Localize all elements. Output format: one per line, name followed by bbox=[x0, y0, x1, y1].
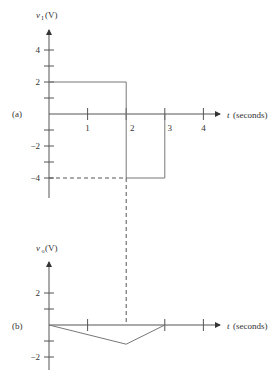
panel-a-signal-line bbox=[49, 82, 165, 178]
panel-b-label: (b) bbox=[12, 321, 23, 331]
panel-a-plot: (a) v I (V) 42−2−4 1234 t (seconds) bbox=[12, 10, 268, 198]
panel-a-x-axis-title: t (seconds) bbox=[227, 110, 268, 120]
panel-b-plot: (b) v o (V) 2−2 t (seconds) bbox=[12, 243, 268, 370]
panel-a-label: (a) bbox=[12, 109, 22, 119]
panel-a-x-tick-label: 2 bbox=[130, 123, 135, 133]
panel-a-y-tick-label: −4 bbox=[30, 173, 40, 183]
panel-a-xlabel-unit: (seconds) bbox=[233, 110, 268, 120]
panel-a-ylabel-var: v bbox=[36, 10, 40, 20]
panel-b-ylabel-var: v bbox=[36, 243, 40, 253]
panel-b-y-tick-label: −2 bbox=[30, 352, 40, 362]
panel-a-xlabel-var: t bbox=[227, 110, 230, 120]
panel-a-x-tick-label: 4 bbox=[201, 123, 206, 133]
panel-b-x-axis-title: t (seconds) bbox=[227, 321, 268, 331]
panel-a-y-axis-title: v I (V) bbox=[36, 10, 58, 21]
panel-a-x-tick-label: 3 bbox=[168, 123, 173, 133]
panel-b-xlabel-var: t bbox=[227, 321, 230, 331]
panel-b-y-tick-label: 2 bbox=[36, 288, 41, 298]
panel-a-ylabel-sub: I bbox=[42, 15, 44, 21]
diagram: (a) v I (V) 42−2−4 1234 t (seconds) (b) … bbox=[0, 0, 280, 380]
panel-b-signal-line bbox=[49, 325, 165, 344]
panel-b-y-axis-title: v o (V) bbox=[36, 243, 58, 254]
panel-a-x-tick-label: 1 bbox=[85, 123, 90, 133]
panel-b-ylabel-unit: (V) bbox=[45, 243, 58, 253]
panel-a-y-tick-label: 4 bbox=[36, 45, 41, 55]
panel-a-ylabel-unit: (V) bbox=[45, 10, 58, 20]
panel-a-y-tick-label: 2 bbox=[36, 77, 41, 87]
panel-a-y-tick-label: −2 bbox=[30, 141, 40, 151]
panel-b-xlabel-unit: (seconds) bbox=[233, 321, 268, 331]
